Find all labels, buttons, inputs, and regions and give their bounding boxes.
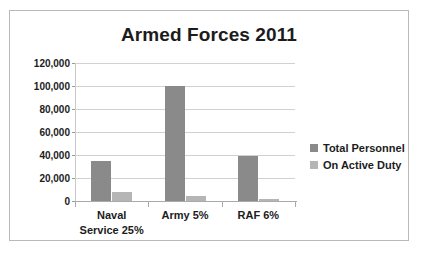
gridline — [75, 86, 295, 87]
y-axis-tick-labels: 020,00040,00060,00080,000100,000120,000 — [10, 63, 70, 201]
x-axis-line — [75, 201, 297, 202]
y-axis-tick-label: 80,000 — [12, 104, 70, 115]
x-axis-tick-label: RAF 6% — [222, 208, 295, 223]
x-axis-separator — [222, 201, 223, 207]
legend-label: On Active Duty — [323, 159, 401, 171]
gridline — [75, 63, 295, 64]
gridline — [75, 155, 295, 156]
bar — [91, 161, 111, 201]
plot-area — [75, 63, 295, 201]
legend-swatch-icon — [310, 144, 318, 152]
legend-item: On Active Duty — [310, 156, 405, 173]
bar — [165, 86, 185, 201]
x-axis-tick-label-line: Service 25% — [75, 223, 148, 238]
x-axis-separator — [75, 201, 76, 207]
y-axis-tick-label: 100,000 — [12, 81, 70, 92]
x-axis-tick-label-line: RAF 6% — [222, 208, 295, 223]
legend-swatch-icon — [310, 161, 318, 169]
y-axis-tick-label: 60,000 — [12, 127, 70, 138]
x-axis-separator — [295, 201, 296, 207]
x-axis-separator — [148, 201, 149, 207]
bar — [238, 156, 258, 201]
chart-legend: Total PersonnelOn Active Duty — [310, 139, 405, 173]
x-axis-tick-label: NavalService 25% — [75, 208, 148, 238]
legend-item: Total Personnel — [310, 139, 405, 156]
gridline — [75, 109, 295, 110]
x-axis-tick-label: Army 5% — [148, 208, 221, 223]
chart-frame: Armed Forces 2011 020,00040,00060,00080,… — [9, 10, 409, 241]
x-axis-tick-label-line: Army 5% — [148, 208, 221, 223]
bar — [112, 192, 132, 201]
chart-title: Armed Forces 2011 — [10, 24, 408, 46]
y-axis-tick-label: 20,000 — [12, 173, 70, 184]
y-axis-tick-label: 0 — [12, 196, 70, 207]
x-axis-tick-label-line: Naval — [75, 208, 148, 223]
legend-label: Total Personnel — [323, 142, 405, 154]
gridline — [75, 132, 295, 133]
y-axis-tick-label: 40,000 — [12, 150, 70, 161]
y-axis-tick-label: 120,000 — [12, 58, 70, 69]
